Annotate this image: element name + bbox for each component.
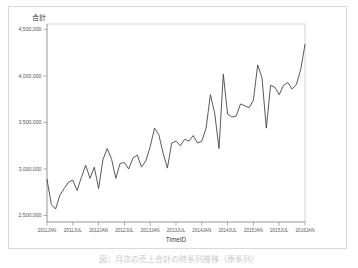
x-axis-tick-label: 2012JAN xyxy=(89,228,108,233)
y-axis: 2,500,0003,000,0003,500,0004,000,0004,50… xyxy=(18,24,47,222)
plot-area-border xyxy=(47,24,305,222)
figure-container: 合計 2,500,0003,000,0003,500,0004,000,0004… xyxy=(0,0,358,268)
figure-caption: 図：月次の売上合計の時系列推移（原系列） xyxy=(0,255,358,265)
line-chart: 2,500,0003,000,0003,500,0004,000,0004,50… xyxy=(0,0,358,268)
y-axis-tick-label: 4,500,000 xyxy=(18,26,41,32)
x-axis-tick-label: 2016JAN xyxy=(296,228,315,233)
x-axis-tick-label: 2014JUL xyxy=(218,228,237,233)
y-axis-tick-label: 3,500,000 xyxy=(18,119,41,125)
x-axis-tick-label: 2014JAN xyxy=(192,228,211,233)
figure-caption-strip: 図：月次の売上合計の時系列推移（原系列） xyxy=(0,255,358,268)
y-axis-tick-label: 3,000,000 xyxy=(18,166,41,172)
plot-frame xyxy=(47,24,305,222)
x-axis-tick-label: 2015JUL xyxy=(270,228,289,233)
x-axis-tick-label: 2013JUL xyxy=(167,228,186,233)
x-axis-tick-label: 2013JAN xyxy=(141,228,160,233)
x-axis-tick-label: 2011JUL xyxy=(64,228,82,233)
x-axis-tick-label: 2015JAN xyxy=(244,228,263,233)
y-axis-tick-label: 4,000,000 xyxy=(18,73,41,79)
x-axis-tick-label: 2012JUL xyxy=(115,228,134,233)
x-axis: 2011JAN2011JUL2012JAN2012JUL2013JAN2013J… xyxy=(38,222,315,233)
x-axis-title: TimeID xyxy=(166,236,187,243)
x-axis-tick-label: 2011JAN xyxy=(38,228,57,233)
y-axis-tick-label: 2,500,000 xyxy=(18,212,41,218)
